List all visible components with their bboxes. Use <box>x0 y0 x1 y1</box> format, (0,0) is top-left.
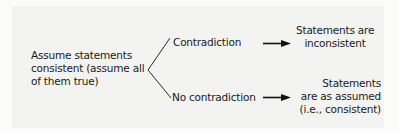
branch-label-contradiction: Contradiction <box>173 36 241 49</box>
outcome-bottom-line-3: (i.e., consistent) <box>296 103 381 116</box>
outcome-bottom-line-2: are as assumed <box>296 90 381 103</box>
arrow-icon-top <box>263 40 291 47</box>
outcome-inconsistent: Statements are inconsistent <box>296 24 374 50</box>
branch-label-no-contradiction: No contradiction <box>172 91 256 104</box>
branch-line-bottom <box>148 70 171 98</box>
outcome-top-line-2: inconsistent <box>296 37 374 50</box>
outcome-top-line-1: Statements are <box>296 24 374 37</box>
branch-line-top <box>148 38 170 70</box>
outcome-consistent: Statements are as assumed (i.e., consist… <box>296 77 381 116</box>
arrow-icon-bottom <box>263 94 291 101</box>
outcome-bottom-line-1: Statements <box>296 77 381 90</box>
